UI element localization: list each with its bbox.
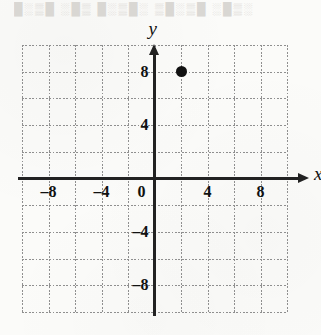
x-axis-label: x [314, 163, 321, 185]
plot-area: –8–404884–4–8 [22, 45, 287, 312]
coordinate-plane-figure: █░▒█ ░█▒ █░▒█░ ▒█░▒█ ░█▒░ –8–404884–4–8 … [0, 0, 321, 335]
plotted-point [176, 66, 187, 77]
x-tick-label: 8 [257, 183, 265, 201]
x-axis-arrowhead [298, 173, 309, 183]
y-tick-label: 8 [22, 63, 149, 81]
y-tick-label: 4 [22, 116, 149, 134]
y-tick-label: –8 [22, 276, 149, 294]
y-axis-arrowhead [149, 44, 159, 55]
x-tick-label: –4 [94, 183, 110, 201]
y-axis-line [153, 54, 155, 316]
y-tick-label: –4 [22, 223, 149, 241]
x-tick-label: 0 [138, 183, 146, 201]
scan-bleedthrough-text: █░▒█ ░█▒ █░▒█░ ▒█░▒█ ░█▒░ [14, 2, 304, 18]
x-tick-label: 4 [204, 183, 212, 201]
x-axis-line [18, 177, 298, 179]
x-tick-label: –8 [41, 183, 57, 201]
y-axis-label: y [149, 18, 157, 40]
